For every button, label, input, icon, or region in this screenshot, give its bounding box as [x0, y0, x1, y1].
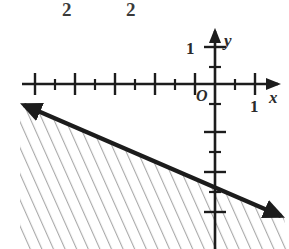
x-axis-label: x — [268, 88, 278, 107]
shaded-solution-region — [0, 80, 289, 249]
x-axis-group — [22, 73, 278, 95]
y-axis-label: y — [222, 31, 232, 50]
graph-screenshot: 2 2 — [0, 0, 289, 249]
x-axis-tick-label-one: 1 — [250, 97, 259, 116]
origin-label: O — [196, 87, 208, 104]
hatch-fill — [0, 80, 289, 249]
y-axis-tick-label-one: 1 — [186, 39, 195, 58]
coordinate-plane: 1 1 O x y — [0, 0, 289, 249]
